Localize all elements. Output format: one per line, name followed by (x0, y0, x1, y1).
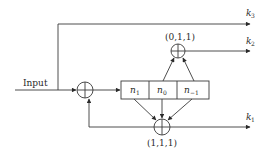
input-xor-icon (77, 82, 93, 98)
top-xor-icon (171, 44, 185, 58)
svg-text:3: 3 (251, 12, 255, 19)
svg-text:2: 2 (251, 40, 255, 47)
convolutional-encoder-diagram: Input n 1 n 0 n −1 (0,1,1) (0, 0, 269, 156)
k3-output-path (58, 24, 250, 90)
bottom-xor-icon (154, 119, 170, 135)
n0-to-top-xor (163, 58, 174, 81)
input-label: Input (23, 78, 48, 88)
svg-text:1: 1 (251, 116, 255, 123)
n-1-to-bottom-xor (168, 99, 192, 120)
output-label-k3: k 3 (246, 8, 255, 19)
top-xor-label: (0,1,1) (165, 32, 195, 42)
bottom-xor-label: (1,1,1) (147, 138, 177, 148)
n1-to-bottom-xor (134, 99, 156, 120)
n-1-to-top-xor (183, 58, 194, 81)
feedback-path (89, 99, 154, 127)
output-label-k1: k 1 (246, 112, 255, 123)
svg-text:0: 0 (163, 89, 167, 96)
svg-text:1: 1 (136, 89, 140, 96)
output-label-k2: k 2 (246, 36, 255, 47)
svg-text:−1: −1 (190, 89, 199, 96)
